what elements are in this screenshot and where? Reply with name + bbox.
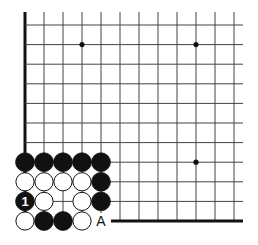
white-stone — [16, 173, 34, 191]
white-stone — [54, 173, 72, 191]
move-number-label: 1 — [21, 194, 28, 209]
black-stone — [92, 172, 111, 191]
white-stone — [73, 192, 91, 210]
point-label-a: A — [96, 213, 106, 229]
white-stone — [73, 212, 91, 230]
star-point — [79, 42, 84, 47]
white-stone — [16, 212, 34, 230]
go-board: 1 A — [0, 0, 258, 245]
black-stone — [92, 153, 111, 172]
black-stone — [92, 192, 111, 211]
white-stone — [35, 192, 53, 210]
white-stone — [73, 173, 91, 191]
point-labels: A — [94, 213, 108, 229]
black-stone — [54, 212, 73, 231]
black-stone — [54, 153, 73, 172]
black-stone — [35, 212, 54, 231]
black-stone — [35, 153, 54, 172]
star-point — [193, 42, 198, 47]
black-stone — [16, 153, 35, 172]
white-stone — [35, 173, 53, 191]
black-stone — [73, 153, 92, 172]
star-point — [193, 160, 198, 165]
